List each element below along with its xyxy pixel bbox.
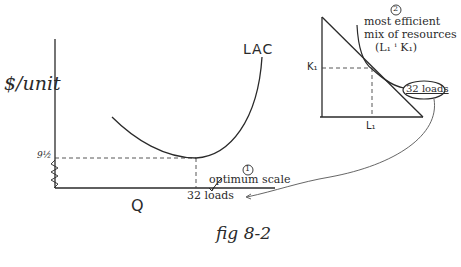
y-axis-label: $/unit	[4, 72, 61, 94]
isoquant-32-loads-label: 32 loads	[406, 84, 449, 94]
annotation-number-2: 2	[393, 5, 398, 13]
lac-curve	[112, 57, 262, 158]
efficient-mix-line3: (L₁ ⁱ K₁)	[375, 42, 417, 53]
efficient-mix-line2: mix of resources	[364, 29, 457, 40]
efficient-mix-line1: most efficient	[364, 16, 440, 27]
l1-tick: L₁	[366, 121, 376, 131]
optimum-scale-label: optimum scale	[209, 174, 290, 185]
annotation-number-1: 1	[245, 165, 250, 173]
figure-caption: fig 8-2	[216, 225, 271, 242]
x-tick-32-loads: 32 loads	[187, 190, 234, 201]
y-tick-min-cost: 9½	[37, 151, 51, 160]
lac-label: LAC	[243, 42, 273, 56]
k1-tick: K₁	[307, 62, 318, 72]
x-axis-label: Q	[131, 198, 144, 214]
